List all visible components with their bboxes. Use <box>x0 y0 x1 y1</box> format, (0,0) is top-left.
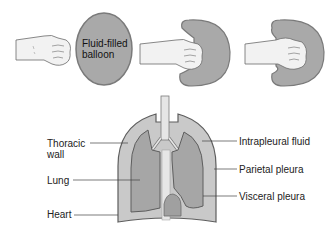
label-heart: Heart <box>47 209 71 220</box>
fist-icon <box>140 39 203 69</box>
label-intrapleural-fluid: Intrapleural fluid <box>239 136 310 147</box>
label-thoracic-wall: Thoracic wall <box>47 138 85 160</box>
label-visceral-pleura: Visceral pleura <box>239 191 305 202</box>
heart <box>164 194 181 216</box>
balloon-label-line2: balloon <box>82 49 128 60</box>
balloon-label: Fluid-filled balloon <box>82 38 128 60</box>
thoracic-wall-line1: Thoracic <box>47 138 85 149</box>
balloon-label-line1: Fluid-filled <box>82 38 128 49</box>
label-parietal-pleura: Parietal pleura <box>239 164 303 175</box>
trachea <box>161 96 169 140</box>
thoracic-wall-line2: wall <box>47 149 85 160</box>
label-lung: Lung <box>47 175 69 186</box>
fist-icon <box>16 35 71 65</box>
